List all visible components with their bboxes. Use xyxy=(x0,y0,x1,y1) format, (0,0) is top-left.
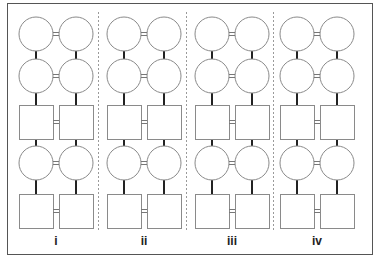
mating-double-line xyxy=(141,75,147,78)
male-square-icon xyxy=(148,106,182,140)
male-square-icon xyxy=(196,195,230,229)
male-square-icon xyxy=(148,195,182,229)
female-circle-icon xyxy=(107,146,141,180)
female-circle-icon xyxy=(320,17,354,51)
pedigree-diagram: iiiiiiiv xyxy=(0,0,377,258)
male-square-icon xyxy=(281,106,315,140)
male-square-icon xyxy=(236,195,270,229)
male-square-icon xyxy=(321,195,355,229)
panel-label: iii xyxy=(227,234,237,248)
mating-double-line xyxy=(229,33,235,36)
mating-double-line xyxy=(141,33,147,36)
female-circle-icon xyxy=(235,146,269,180)
panel-i: i xyxy=(19,17,94,248)
panel-iv: iv xyxy=(280,17,355,248)
panel-ii: ii xyxy=(107,17,182,248)
mating-double-line xyxy=(53,33,59,36)
mating-double-line xyxy=(314,75,320,78)
female-circle-icon xyxy=(19,59,53,93)
panel-label: iv xyxy=(312,234,322,248)
female-circle-icon xyxy=(320,59,354,93)
panel-label: ii xyxy=(141,234,148,248)
male-square-icon xyxy=(321,106,355,140)
female-circle-icon xyxy=(195,17,229,51)
male-square-icon xyxy=(236,106,270,140)
female-circle-icon xyxy=(235,59,269,93)
male-square-icon xyxy=(108,195,142,229)
female-circle-icon xyxy=(320,146,354,180)
panel-iii: iii xyxy=(195,17,270,248)
mating-double-line xyxy=(53,162,59,165)
female-circle-icon xyxy=(280,146,314,180)
male-square-icon xyxy=(20,106,54,140)
male-square-icon xyxy=(60,106,94,140)
female-circle-icon xyxy=(280,17,314,51)
mating-double-line xyxy=(229,162,235,165)
female-circle-icon xyxy=(59,59,93,93)
female-circle-icon xyxy=(107,17,141,51)
female-circle-icon xyxy=(59,17,93,51)
female-circle-icon xyxy=(19,17,53,51)
female-circle-icon xyxy=(195,59,229,93)
female-circle-icon xyxy=(59,146,93,180)
female-circle-icon xyxy=(147,59,181,93)
female-circle-icon xyxy=(280,59,314,93)
male-square-icon xyxy=(108,106,142,140)
male-square-icon xyxy=(281,195,315,229)
mating-double-line xyxy=(314,162,320,165)
mating-double-line xyxy=(314,33,320,36)
mating-double-line xyxy=(229,75,235,78)
female-circle-icon xyxy=(235,17,269,51)
female-circle-icon xyxy=(107,59,141,93)
mating-double-line xyxy=(141,162,147,165)
female-circle-icon xyxy=(147,17,181,51)
male-square-icon xyxy=(60,195,94,229)
female-circle-icon xyxy=(19,146,53,180)
female-circle-icon xyxy=(147,146,181,180)
panel-label: i xyxy=(54,234,57,248)
mating-double-line xyxy=(53,75,59,78)
male-square-icon xyxy=(196,106,230,140)
male-square-icon xyxy=(20,195,54,229)
female-circle-icon xyxy=(195,146,229,180)
